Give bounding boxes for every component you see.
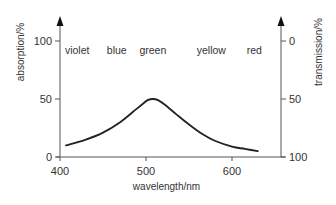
x-tick-label: 500 (137, 165, 155, 177)
plot-area (66, 99, 258, 151)
color-band-labels: violetbluegreenyellowred (65, 44, 262, 56)
color-band-label-blue: blue (107, 44, 127, 56)
y-tick-label: 50 (40, 93, 52, 105)
x-axis-title: wavelength/nm (132, 181, 200, 192)
y-axis-title: absorption/% (15, 23, 26, 81)
ticks: 050100100500400500600 (34, 35, 308, 177)
color-band-label-green: green (139, 44, 166, 56)
y2-tick-label: 50 (289, 93, 301, 105)
y2-tick-label: 100 (289, 151, 307, 163)
color-band-label-red: red (247, 44, 262, 56)
x-tick-label: 600 (223, 165, 241, 177)
y-tick-label: 100 (34, 35, 52, 47)
absorption-chart: 050100100500400500600 violetbluegreenyel… (0, 0, 336, 205)
color-band-label-violet: violet (65, 44, 90, 56)
x-tick-label: 400 (51, 165, 69, 177)
y-axis-arrow-icon (57, 16, 64, 26)
y2-tick-label: 0 (289, 35, 295, 47)
color-band-label-yellow: yellow (197, 44, 227, 56)
series-line-absorption (66, 99, 258, 151)
y2-axis-arrow-icon (278, 16, 285, 26)
y-tick-label: 0 (46, 151, 52, 163)
y2-axis-title: transmission/% (313, 18, 324, 86)
axes (56, 16, 285, 157)
